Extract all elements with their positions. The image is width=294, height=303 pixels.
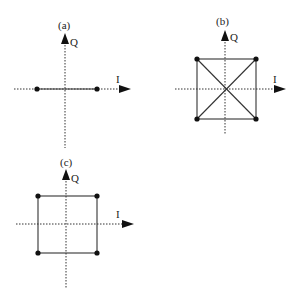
constellation-diagrams: (a) Q I (b) Q I (c) Q I [0, 0, 294, 303]
constellation-point [94, 250, 99, 255]
constellation-point [35, 193, 40, 198]
panel-label: (b) [216, 15, 229, 28]
q-axis-label: Q [71, 172, 79, 184]
i-axis-arrow-icon [119, 85, 131, 93]
q-axis-arrow-icon [62, 169, 70, 180]
panel-a: (a) Q I [14, 19, 131, 148]
i-axis-label: I [273, 73, 277, 85]
q-axis-arrow-icon [61, 33, 69, 44]
q-axis-label: Q [230, 31, 238, 43]
q-axis-arrow-icon [221, 30, 229, 41]
constellation-point [253, 116, 258, 121]
panel-b: (b) Q I [175, 15, 286, 135]
constellation-point [94, 193, 99, 198]
constellation-point [35, 250, 40, 255]
constellation-point [34, 86, 39, 91]
i-axis-arrow-icon [274, 85, 286, 93]
panel-label: (c) [60, 156, 73, 169]
q-axis-label: Q [70, 36, 78, 48]
i-axis-label: I [116, 73, 120, 85]
panel-c: (c) Q I [16, 156, 134, 288]
i-axis-label: I [116, 208, 120, 220]
constellation-point [253, 56, 258, 61]
constellation-point [194, 116, 199, 121]
constellation-point [194, 56, 199, 61]
panel-label: (a) [58, 19, 71, 32]
constellation-point [94, 86, 99, 91]
i-axis-arrow-icon [122, 220, 134, 228]
